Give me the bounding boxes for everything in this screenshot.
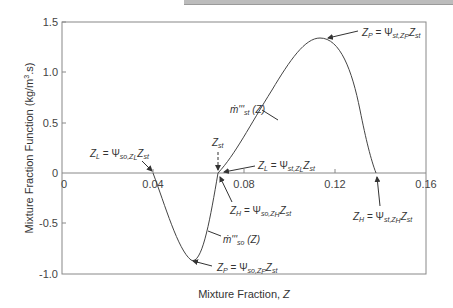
y-tick-label: -1.0 [39, 268, 58, 280]
arrow [224, 166, 255, 172]
curve-label-so: ṁ'''so (Z) [223, 234, 260, 246]
arrow [220, 177, 232, 202]
annotation-zp-so: ZP = Ψso,ZPZst [216, 262, 278, 275]
y-tick-label: 0.5 [43, 117, 58, 129]
annotation-zl-so: ZL = Ψso,ZLZst [89, 148, 150, 161]
y-tick-label: 0 [52, 167, 58, 179]
x-tick-label: 0 [61, 178, 67, 190]
y-tick-label: -0.5 [39, 217, 58, 229]
annotation-zst: Zst [211, 137, 225, 149]
x-tick-label: 0.16 [415, 178, 436, 190]
y-tick-label: 1.0 [43, 66, 58, 78]
x-tick-label: 0.12 [324, 178, 345, 190]
annotation-zh-st: ZH = Ψst,ZHZst [352, 211, 413, 224]
chart: 1.5 1.0 0.5 0 -0.5 -1.0 0 0.04 0.08 0.12… [0, 0, 453, 308]
annotation-zp-st: ZP = Ψst,ZPZst [361, 27, 422, 40]
x-axis-label: Mixture Fraction, Z [198, 288, 291, 300]
curve-label-st: ṁ'''st (Z) [230, 104, 265, 116]
annotation-zh-so: ZH = Ψso,ZHZst [229, 205, 292, 218]
arrow [142, 161, 152, 171]
y-axis-label: Mixture Fraction Function (kg/m3.s) [23, 63, 35, 234]
arrow [328, 31, 358, 38]
leader-line [208, 231, 221, 236]
leader-line [262, 110, 278, 120]
annotation-zl-st: ZL = Ψst,ZLZst [257, 160, 316, 173]
arrow [193, 261, 212, 266]
x-tick-label: 0.08 [233, 178, 254, 190]
y-ticks [62, 22, 66, 223]
x-tick-label: 0.04 [142, 178, 163, 190]
y-tick-label: 1.5 [43, 16, 58, 28]
arrow [377, 177, 380, 206]
